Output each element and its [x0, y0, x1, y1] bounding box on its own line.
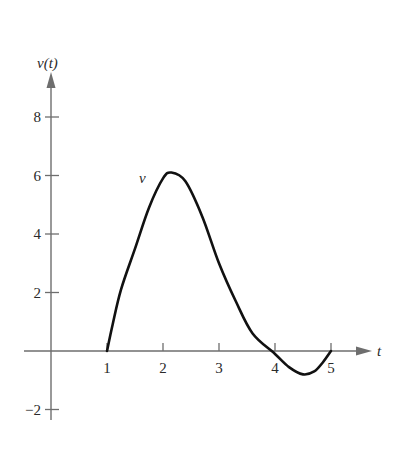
- y-axis-arrow: [47, 72, 56, 88]
- y-tick-label: 4: [34, 226, 42, 242]
- x-ticks: 12345: [103, 343, 335, 376]
- x-tick-label: 2: [159, 360, 167, 376]
- x-tick-label: 4: [271, 360, 279, 376]
- y-tick-label: −2: [25, 402, 41, 418]
- x-tick-label: 1: [103, 360, 111, 376]
- curve-label: v: [139, 170, 146, 186]
- x-axis-label: t: [377, 343, 382, 359]
- velocity-chart: 12345 8642−2 v(t) t v: [0, 0, 399, 461]
- y-axis-label: v(t): [37, 55, 58, 72]
- y-tick-label: 8: [34, 109, 42, 125]
- y-tick-label: 2: [34, 285, 42, 301]
- x-tick-label: 3: [215, 360, 223, 376]
- x-tick-label: 5: [327, 360, 335, 376]
- y-tick-label: 6: [34, 168, 42, 184]
- y-ticks: 8642−2: [25, 109, 59, 418]
- x-axis-arrow: [356, 347, 372, 356]
